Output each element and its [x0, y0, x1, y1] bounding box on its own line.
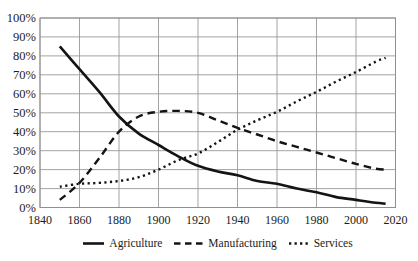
manufacturing-dashed-line-swatch — [174, 239, 203, 248]
x-axis-tick-label: 1940 — [226, 213, 250, 227]
legend-item-services: Services — [289, 237, 353, 249]
legend-label-services: Services — [314, 237, 353, 249]
y-axis-tick-label: 10% — [13, 182, 36, 196]
services-dotted-line-swatch — [289, 239, 309, 248]
x-axis-tick-label: 1840 — [28, 213, 52, 227]
y-axis-tick-label: 40% — [13, 125, 36, 139]
x-axis-tick-label: 2000 — [344, 213, 368, 227]
legend-label-agriculture: Agriculture — [109, 237, 162, 249]
x-axis-tick-label: 1960 — [265, 213, 289, 227]
manufacturing-line — [60, 111, 386, 200]
y-axis-tick-label: 100% — [7, 11, 36, 25]
chart-legend: Agriculture Manufacturing Services — [40, 237, 396, 249]
x-axis-tick-label: 1920 — [186, 213, 210, 227]
y-axis-tick-label: 50% — [13, 106, 36, 120]
x-axis-tick-label: 1860 — [68, 213, 92, 227]
y-axis-tick-label: 20% — [13, 163, 36, 177]
legend-item-manufacturing: Manufacturing — [174, 237, 276, 249]
legend-item-agriculture: Agriculture — [83, 237, 162, 249]
x-axis-tick-label: 1880 — [107, 213, 131, 227]
legend-label-manufacturing: Manufacturing — [208, 237, 276, 249]
agriculture-line — [60, 46, 386, 203]
three-sector-line-chart: 0%10%20%30%40%50%60%70%80%90%100%1840186… — [0, 0, 418, 261]
x-axis-tick-label: 1900 — [147, 213, 171, 227]
y-axis-tick-label: 80% — [13, 49, 36, 63]
x-axis-tick-label: 1980 — [305, 213, 329, 227]
agriculture-solid-line-swatch — [83, 239, 104, 248]
y-axis-tick-label: 90% — [13, 30, 36, 44]
y-axis-tick-label: 60% — [13, 87, 36, 101]
y-axis-tick-label: 30% — [13, 144, 36, 158]
y-axis-tick-label: 70% — [13, 68, 36, 82]
x-axis-tick-label: 2020 — [384, 213, 408, 227]
chart-plot-area: 0%10%20%30%40%50%60%70%80%90%100%1840186… — [0, 0, 418, 261]
